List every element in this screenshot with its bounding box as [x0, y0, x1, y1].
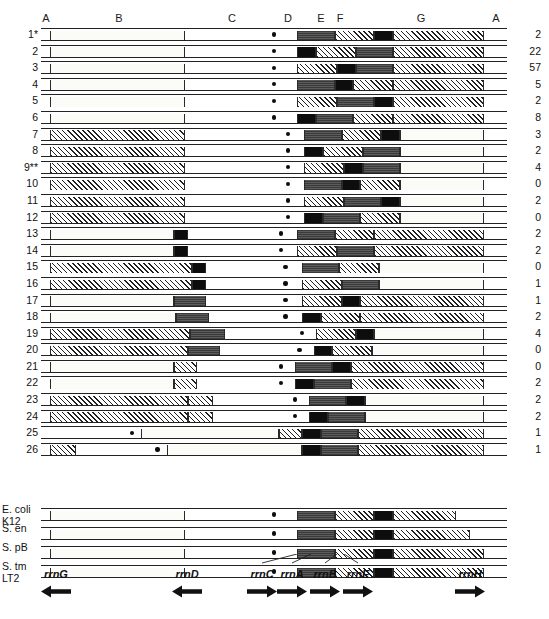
row-9-track [41, 177, 507, 190]
rrn-direction-arrow-rrnA [277, 584, 307, 602]
row-16-segment-hatch-6 [360, 296, 483, 306]
row-11-segment-dots-6 [400, 213, 484, 223]
row-9-segment-hatch-5 [360, 180, 400, 190]
row-type-label: 3 [0, 61, 38, 74]
row-strain-count: 0 [511, 360, 541, 373]
row-type-label: 16 [0, 277, 38, 290]
row-type-label: 19 [0, 327, 38, 340]
row-11-segment-hatch-1 [50, 213, 185, 223]
rrn-direction-arrow-rrnC [247, 584, 277, 602]
row-10-segment-dark-4 [344, 197, 381, 207]
row-22-origin-marker-icon [293, 397, 297, 401]
row-22-segment-white-7 [484, 396, 507, 406]
row-23-track [41, 410, 507, 423]
row-20-segment-dots-1 [50, 362, 173, 372]
row-18-segment-hatch-1 [50, 329, 190, 339]
row-20-segment-white-7 [484, 362, 507, 372]
row-12-segment-dots-1 [50, 230, 173, 240]
row-10-segment-white-7 [484, 197, 507, 207]
row-8-segment-black-4 [344, 163, 363, 173]
row-type-label: 15 [0, 260, 38, 273]
row-strain-count: 0 [511, 343, 541, 356]
table-row: 194 [0, 326, 549, 343]
row-12-origin-marker-icon [279, 231, 283, 235]
row-4-segment-black-5 [374, 97, 393, 107]
row-11-segment-black-3 [304, 213, 323, 223]
row-20-segment-hatch-2 [174, 362, 197, 372]
row-24-track [41, 426, 507, 439]
segment-letter-e-4: E [317, 12, 324, 24]
table-row: 82 [0, 143, 549, 160]
row-20-segment-dark-4 [295, 362, 332, 372]
row-strain-count: 4 [511, 327, 541, 340]
row-23-segment-hatch-2 [188, 412, 214, 422]
row-17-origin-marker-icon [283, 314, 287, 318]
row-1-track [41, 45, 507, 58]
row-9-segment-dark-3 [304, 180, 341, 190]
row-1-segment-dark-5 [356, 47, 393, 57]
row-17-segment-hatch-6 [360, 313, 483, 323]
row-13-segment-dark-5 [337, 246, 374, 256]
row-type-label: 17 [0, 294, 38, 307]
row-3-segment-dark-3 [297, 80, 334, 90]
table-row: 100 [0, 176, 549, 193]
row-0-segment-black-5 [374, 31, 393, 41]
ref-0-segment-white-2 [185, 511, 297, 521]
rrn-operon-label-rrnE: rrnE [347, 568, 370, 581]
row-8-track [41, 161, 507, 174]
row-16-segment-hatch-4 [302, 296, 342, 306]
row-14-track [41, 260, 507, 273]
row-7-segment-hatch-4 [323, 147, 363, 157]
ref-1-segment-dark-3 [297, 530, 334, 540]
row-type-label: 11 [0, 194, 38, 207]
row-21-segment-dots-1 [50, 379, 173, 389]
row-23-segment-white-7 [484, 412, 507, 422]
row-18-segment-dark-2 [190, 329, 225, 339]
row-10-segment-black-5 [381, 197, 400, 207]
row-type-label: 20 [0, 343, 38, 356]
row-20-track [41, 360, 507, 373]
row-type-label: 18 [0, 310, 38, 323]
row-24-segment-dots-1 [141, 429, 278, 439]
rrn-direction-arrow-rrnD [172, 584, 202, 602]
row-21-segment-dark-5 [314, 379, 351, 389]
row-8-segment-white-0 [41, 163, 50, 173]
row-15-segment-dots-6 [379, 280, 484, 290]
row-strain-count: 4 [511, 161, 541, 174]
row-4-segment-white-2 [185, 97, 297, 107]
row-8-segment-dots-6 [400, 163, 484, 173]
row-16-segment-white-7 [484, 296, 507, 306]
row-5-segment-white-7 [484, 114, 507, 124]
row-14-segment-white-7 [484, 263, 507, 273]
row-16-segment-black-5 [342, 296, 361, 306]
row-type-label: 6 [0, 111, 38, 124]
row-1-segment-hatch-4 [316, 47, 356, 57]
row-3-segment-white-7 [484, 80, 507, 90]
row-0-segment-hatch-4 [335, 31, 375, 41]
row-strain-count: 2 [511, 244, 541, 257]
ref-2-origin-marker-icon [272, 550, 276, 554]
row-0-segment-dots-1 [50, 31, 185, 41]
row-1-segment-white-2 [185, 47, 297, 57]
row-14-segment-white-0 [41, 263, 50, 273]
row-22-segment-dots-6 [365, 396, 484, 406]
row-type-label: 1* [0, 28, 38, 41]
row-25-segments [41, 445, 507, 455]
row-strain-count: 1 [511, 277, 541, 290]
row-25-segment-white-7 [484, 445, 507, 455]
row-strain-count: 1 [511, 443, 541, 456]
row-20-segments [41, 362, 507, 372]
table-row: 182 [0, 309, 549, 326]
row-type-label: 23 [0, 393, 38, 406]
row-13-track [41, 244, 507, 257]
row-10-segment-hatch-3 [304, 197, 344, 207]
row-17-segment-hatch-5 [321, 313, 361, 323]
row-3-track [41, 78, 507, 91]
table-row: 73 [0, 127, 549, 144]
row-0-segment-white-2 [185, 31, 297, 41]
row-4-segment-dark-4 [337, 97, 374, 107]
row-0-segment-white-7 [484, 31, 507, 41]
row-25-segment-black-4 [302, 445, 321, 455]
table-row: 161 [0, 276, 549, 293]
row-2-origin-marker-icon [272, 66, 276, 70]
